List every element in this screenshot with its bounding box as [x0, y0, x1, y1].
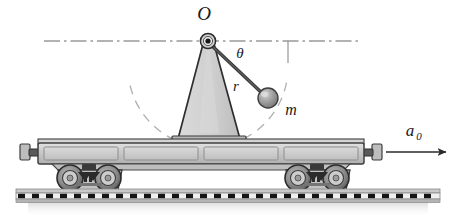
rod-length-label: r	[233, 78, 239, 94]
bogie-left	[57, 164, 122, 191]
acceleration-label: a 0	[406, 121, 423, 142]
physics-diagram-figure: O θ r m a 0	[0, 0, 454, 224]
pivot-label: O	[197, 3, 211, 24]
bob-mass-label: m	[285, 101, 297, 118]
bogie-right	[285, 164, 350, 191]
pivot-point	[200, 33, 215, 48]
railroad-flatcar	[20, 139, 382, 191]
coupler-left	[20, 144, 40, 160]
acceleration-symbol: a	[406, 121, 415, 140]
pendulum-bob	[258, 88, 278, 108]
railroad-track	[16, 189, 440, 203]
diagram-canvas: O θ r m a 0	[0, 0, 454, 224]
coupler-right	[362, 144, 382, 160]
angle-label: θ	[236, 45, 244, 61]
acceleration-subscript: 0	[416, 130, 422, 142]
